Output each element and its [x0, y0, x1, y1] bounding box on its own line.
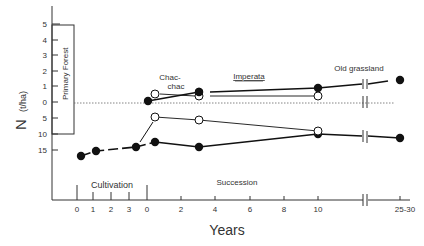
svg-text:N: N: [12, 119, 29, 130]
svg-text:0: 0: [43, 98, 48, 107]
x-tick-labels: 0 1 2 3 0 2 4 6 8 10 25-30: [75, 205, 416, 214]
series-succession-soil-open: [151, 113, 322, 135]
svg-text:4: 4: [213, 205, 218, 214]
svg-text:2: 2: [109, 205, 114, 214]
svg-text:1: 1: [91, 205, 96, 214]
svg-text:(t/ha): (t/ha): [18, 91, 28, 112]
imperata-label: Imperata: [233, 72, 265, 81]
succession-label: Succession: [217, 178, 258, 187]
svg-text:5: 5: [43, 20, 48, 29]
svg-text:2: 2: [43, 67, 48, 76]
svg-text:10: 10: [314, 205, 323, 214]
cultivation-label: Cultivation: [91, 180, 133, 190]
svg-text:2: 2: [179, 205, 184, 214]
x-axis-label: Years: [209, 222, 244, 238]
svg-text:3: 3: [127, 205, 132, 214]
svg-text:0: 0: [145, 205, 150, 214]
svg-text:1: 1: [43, 82, 48, 91]
primary-forest-label: Primary Forest: [61, 47, 70, 100]
svg-text:6: 6: [248, 205, 253, 214]
svg-text:25-30: 25-30: [395, 205, 416, 214]
svg-text:10: 10: [38, 130, 47, 139]
svg-text:4: 4: [43, 36, 48, 45]
chart: 5 4 3 2 1 0 5 10 15 N (t/ha) Primary For…: [0, 0, 424, 246]
svg-text:8: 8: [282, 205, 287, 214]
y-ticks: [52, 24, 60, 150]
series-cultivation-soil: [77, 138, 159, 160]
chac-chac-label-2: chac: [168, 82, 185, 91]
svg-text:5: 5: [43, 114, 48, 123]
series-succession-soil-filled: [155, 130, 404, 151]
svg-text:3: 3: [43, 51, 48, 60]
chac-chac-label-1: Chac-: [159, 73, 181, 82]
y-tick-labels: 5 4 3 2 1 0 5 10 15: [38, 20, 47, 155]
chart-canvas: 5 4 3 2 1 0 5 10 15 N (t/ha) Primary For…: [0, 0, 424, 246]
svg-text:0: 0: [75, 205, 80, 214]
svg-text:15: 15: [38, 146, 47, 155]
old-grassland-label: Old grassland: [334, 64, 383, 73]
y-axis-label: N (t/ha): [12, 91, 29, 130]
